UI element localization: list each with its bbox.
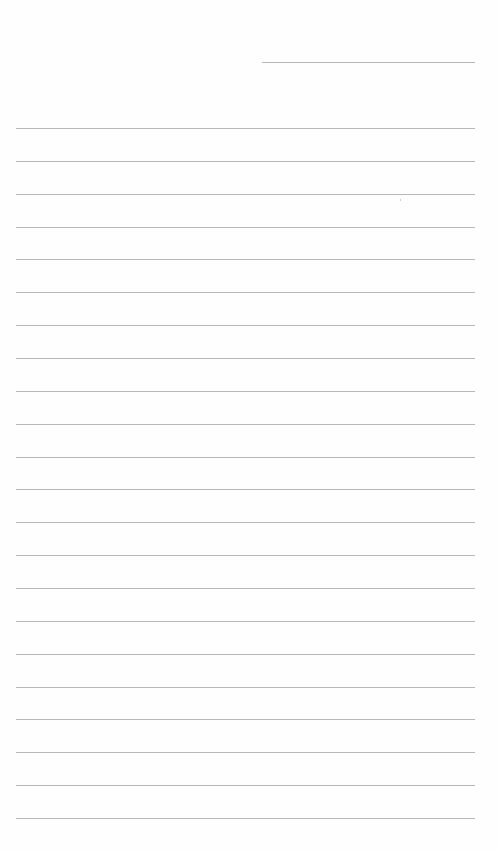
ruled-line xyxy=(16,424,475,425)
ruled-line xyxy=(16,522,475,523)
ruled-line xyxy=(16,588,475,589)
ruled-line xyxy=(16,259,475,260)
ruled-line xyxy=(16,292,475,293)
ruled-line xyxy=(16,194,475,195)
ruled-line xyxy=(16,489,475,490)
ruled-line xyxy=(16,128,475,129)
ruled-line xyxy=(16,752,475,753)
ruled-line xyxy=(16,719,475,720)
ruled-line xyxy=(16,391,475,392)
ruled-line xyxy=(16,555,475,556)
ruled-line xyxy=(16,161,475,162)
ruled-line xyxy=(16,687,475,688)
ruled-line xyxy=(16,785,475,786)
ruled-line xyxy=(16,457,475,458)
ruled-line xyxy=(16,358,475,359)
ruled-line xyxy=(16,227,475,228)
lined-paper-page xyxy=(0,0,498,851)
paper-speck xyxy=(400,199,401,201)
ruled-line xyxy=(16,654,475,655)
ruled-line xyxy=(16,621,475,622)
header-writing-line xyxy=(262,62,475,63)
ruled-line xyxy=(16,818,475,819)
ruled-line xyxy=(16,325,475,326)
